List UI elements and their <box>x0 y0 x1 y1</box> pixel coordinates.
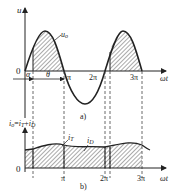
y-axis-label-b: io=iT+iD <box>9 119 36 128</box>
tick-pi-a: π <box>67 73 71 82</box>
shaded-region-2 <box>110 31 142 71</box>
theta-label: θ <box>46 70 50 79</box>
panel-b: io=iT+iD 0 π 2π 3π ωt iT iD b) <box>9 119 169 191</box>
curve-label-uo: uo <box>61 30 68 39</box>
origin-label-a: 0 <box>16 66 21 76</box>
caption-a: a) <box>80 112 87 121</box>
curve-label-iT: iT <box>68 133 74 142</box>
y-axis-label-a: u <box>17 5 22 15</box>
tick-2pi-a: 2π <box>89 73 97 82</box>
curve-label-iD: iD <box>87 136 94 145</box>
x-axis-label-b: ωt <box>160 174 169 183</box>
waveform-diagram: u 0 α θ π 2π 3π ωt uo a) io=iT+iD 0 π <box>0 0 183 196</box>
tick-3pi-a: 3π <box>130 73 138 82</box>
tick-2pi-b: 2π <box>100 174 108 183</box>
origin-label-b: 0 <box>16 164 21 174</box>
caption-b: b) <box>80 182 87 191</box>
x-axis-label-a: ωt <box>160 74 169 83</box>
tick-3pi-b: 3π <box>137 174 145 183</box>
tick-pi-b: π <box>61 174 65 183</box>
